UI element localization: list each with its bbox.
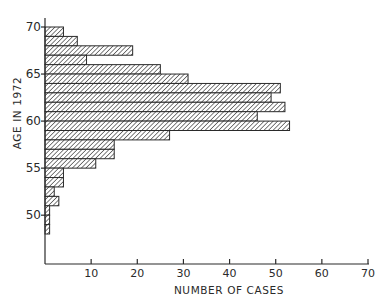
y-tick-label: 50 [26,208,41,222]
y-tick-label: 55 [26,161,41,175]
bar-age-59 [45,121,290,130]
bar-age-50 [45,206,50,215]
bar-age-54 [45,168,63,177]
bar-age-57 [45,140,114,149]
bar-age-65 [45,65,160,74]
bar-age-64 [45,74,188,83]
bar-age-52 [45,187,54,196]
bar-age-69 [45,27,63,36]
bar-age-49 [45,215,50,224]
histogram-chart: 10203040506070 5055606570 NUMBER OF CASE… [0,0,380,301]
bar-age-55 [45,159,96,168]
x-tick-label: 50 [269,267,283,280]
bar-age-67 [45,46,133,55]
x-axis-title: NUMBER OF CASES [174,284,284,296]
bars-group [45,27,290,234]
bar-age-66 [45,55,87,64]
y-ticks-group: 5055606570 [26,20,45,222]
y-tick-label: 60 [26,114,41,128]
y-tick-label: 70 [26,20,41,34]
bar-age-53 [45,178,63,187]
y-axis-title: AGE IN 1972 [11,77,23,150]
y-tick-label: 65 [26,67,41,81]
bar-age-58 [45,131,170,140]
bar-age-51 [45,196,59,205]
x-tick-label: 70 [361,267,375,280]
x-tick-label: 60 [315,267,329,280]
bar-age-56 [45,149,114,158]
bar-age-60 [45,112,257,121]
x-tick-label: 40 [223,267,237,280]
x-tick-label: 10 [84,267,98,280]
bar-age-63 [45,83,280,92]
x-tick-label: 20 [130,267,144,280]
bar-age-48 [45,225,50,234]
x-ticks-group: 10203040506070 [84,259,375,280]
bar-age-62 [45,93,271,102]
x-tick-label: 30 [176,267,190,280]
bar-age-68 [45,36,77,45]
bar-age-61 [45,102,285,111]
